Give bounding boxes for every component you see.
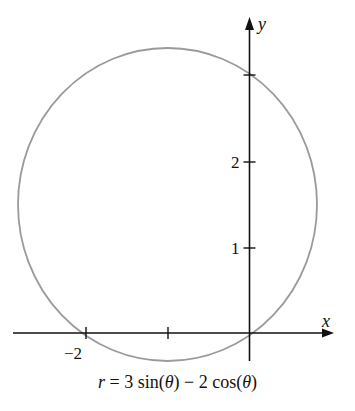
caption-r: r	[98, 372, 105, 392]
y-tick-label-1: 1	[231, 239, 240, 258]
x-tick-label-neg2: −2	[64, 344, 82, 363]
caption-theta: θ	[165, 372, 174, 392]
y-axis-arrow-icon	[245, 17, 254, 30]
polar-plot: −2 2 1 x y	[0, 0, 355, 411]
caption-theta: θ	[242, 372, 251, 392]
y-axis-label: y	[256, 14, 266, 34]
polar-curve	[18, 48, 317, 361]
caption-part: ) − 2 cos(	[174, 372, 243, 392]
y-tick-label-2: 2	[231, 153, 240, 172]
caption-part: = 3 sin(	[105, 372, 165, 392]
caption-part: )	[251, 372, 257, 392]
x-axis-label: x	[321, 311, 330, 331]
chart-caption: r = 3 sin(θ) − 2 cos(θ)	[0, 372, 355, 393]
